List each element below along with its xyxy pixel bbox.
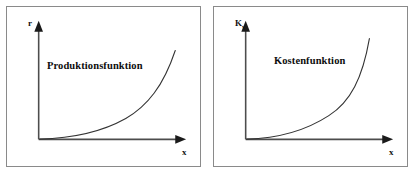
y-axis-label-r-text: r bbox=[28, 18, 32, 28]
caption-produktionsfunktion: Produktionsfunktion bbox=[47, 61, 143, 72]
y-axis-label-kv-text: K bbox=[235, 18, 242, 28]
x-axis-label-x-text: x bbox=[389, 147, 394, 157]
x-axis-label-x: x bbox=[389, 148, 394, 157]
x-axis-arrowhead bbox=[382, 135, 393, 144]
panel-produktionsfunktion: r x Produktionsfunktion bbox=[6, 6, 201, 167]
two-panel-figure: r x Produktionsfunktion Kv x Kostenfunkt… bbox=[0, 0, 415, 175]
y-axis-label-kv: Kv bbox=[235, 19, 245, 30]
y-axis-label-kv-subscript: v bbox=[242, 24, 245, 30]
panel-kostenfunktion: Kv x Kostenfunktion bbox=[213, 6, 408, 167]
cost-function-curve bbox=[247, 39, 370, 140]
y-axis-label-r: r bbox=[28, 19, 32, 28]
produktionsfunktion-plot bbox=[7, 7, 200, 166]
caption-kostenfunktion: Kostenfunktion bbox=[274, 56, 345, 67]
x-axis-arrowhead bbox=[175, 135, 186, 144]
y-axis-arrowhead bbox=[34, 21, 43, 32]
x-axis-label-x-text: x bbox=[182, 147, 187, 157]
x-axis-label-x: x bbox=[182, 148, 187, 157]
kostenfunktion-plot bbox=[214, 7, 407, 166]
